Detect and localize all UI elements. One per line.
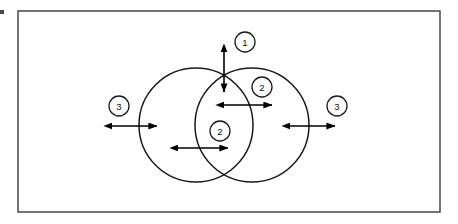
callout-2-upper-label: 2: [259, 82, 264, 93]
callout-bubble-3-right: 3: [327, 96, 347, 116]
edge-artifact-speck: [0, 10, 4, 14]
callout-bubble-1: 1: [235, 32, 255, 52]
callout-bubble-2-upper: 2: [252, 77, 272, 97]
callout-bubble-2-lower: 2: [210, 121, 230, 141]
callout-1-label: 1: [242, 37, 247, 48]
callout-bubble-3-left: 3: [109, 96, 129, 116]
callout-3-left-label: 3: [116, 101, 121, 112]
figure-frame: [18, 11, 440, 212]
figure-container: 1 2 2 3 3: [0, 0, 458, 224]
diagram-canvas: 1 2 2 3 3: [0, 0, 458, 224]
callout-3-right-label: 3: [334, 101, 339, 112]
callout-2-lower-label: 2: [217, 126, 222, 137]
